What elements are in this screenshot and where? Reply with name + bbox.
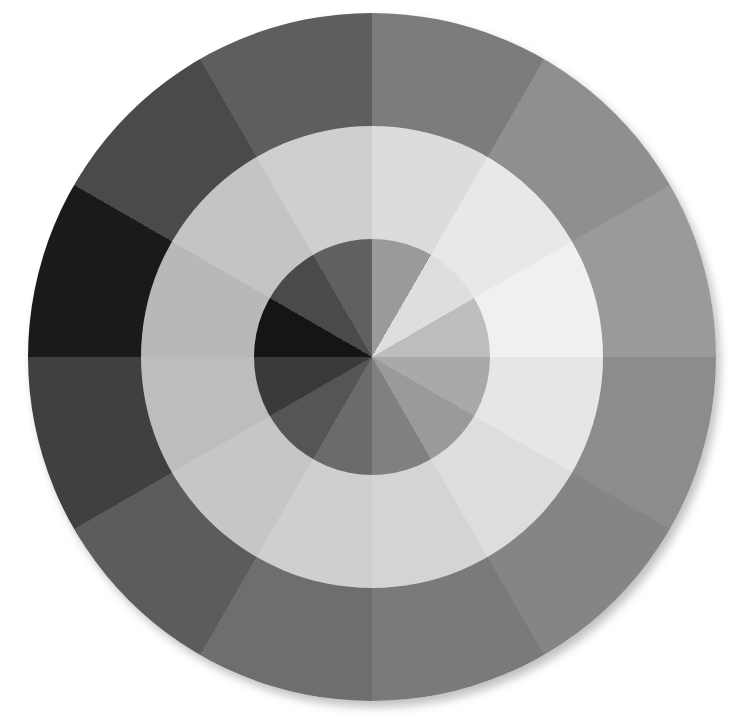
inner-ring [254,239,490,475]
